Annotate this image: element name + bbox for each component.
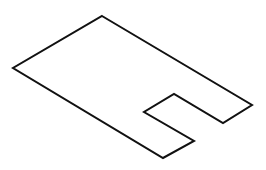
notched-plate-outline [13, 16, 252, 158]
diagram-canvas [0, 0, 266, 170]
